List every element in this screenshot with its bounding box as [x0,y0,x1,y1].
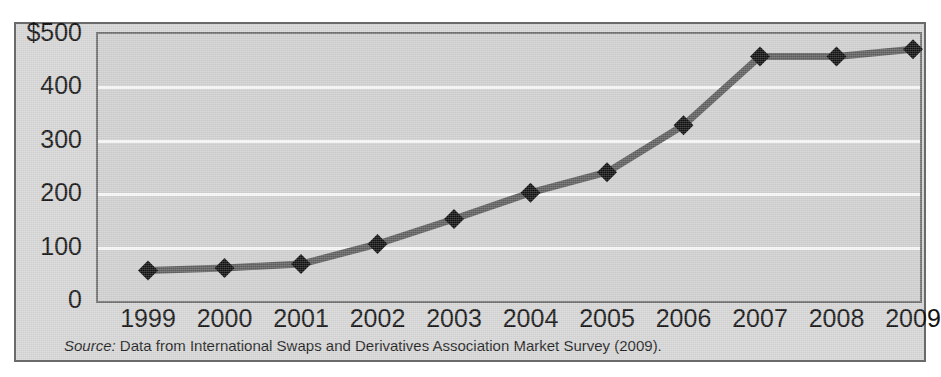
x-tick-2001: 2001 [273,306,329,331]
x-tick-2007: 2007 [732,306,788,331]
plot-area [96,32,922,303]
x-tick-2004: 2004 [503,306,559,331]
x-axis-tick-labels: 1999 2000 2001 2002 2003 2004 2005 2006 … [96,306,922,340]
marker-1999 [138,261,158,281]
y-tick-300: 300 [16,126,82,151]
x-tick-2005: 2005 [579,306,635,331]
marker-2001 [291,254,311,274]
x-tick-2008: 2008 [809,306,865,331]
figure-frame: $500 400 300 200 100 0 [14,22,926,362]
y-tick-500: $500 [16,20,82,45]
marker-2003 [444,209,464,229]
marker-2004 [521,183,541,203]
y-tick-0: 0 [16,287,82,312]
x-tick-2002: 2002 [350,306,406,331]
y-axis-tick-labels: $500 400 300 200 100 0 [16,24,82,304]
source-text: Data from International Swaps and Deriva… [116,337,662,354]
y-tick-200: 200 [16,180,82,205]
line-series-svg [98,34,920,301]
source-note: Source: Data from International Swaps an… [64,337,662,354]
marker-2000 [215,258,235,278]
marker-2009 [903,39,923,59]
x-tick-1999: 1999 [120,306,176,331]
series-markers [138,39,923,280]
clipped-top-text [0,0,938,12]
x-tick-2006: 2006 [656,306,712,331]
y-tick-400: 400 [16,73,82,98]
marker-2002 [368,234,388,254]
x-tick-2003: 2003 [426,306,482,331]
marker-2008 [827,46,847,66]
x-tick-2000: 2000 [197,306,253,331]
y-tick-100: 100 [16,233,82,258]
series-line [148,49,913,270]
source-label: Source: [64,337,116,354]
x-tick-2009: 2009 [885,306,941,331]
